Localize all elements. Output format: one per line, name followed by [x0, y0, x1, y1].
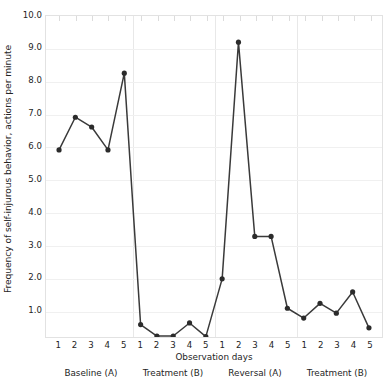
data-point-marker: [366, 325, 371, 330]
data-point-marker: [350, 289, 355, 294]
phase-label: Treatment (B): [143, 368, 203, 378]
phase-label: Reversal (A): [228, 368, 281, 378]
series-polyline: [59, 42, 369, 337]
data-point-marker: [317, 301, 322, 306]
y-tick-label: 10.0: [16, 11, 42, 20]
y-tick-label: 4.0: [16, 208, 42, 217]
data-point-marker: [236, 40, 241, 45]
y-axis-title: Frequency of self-injurous behavior, act…: [0, 0, 14, 338]
y-axis-tick-labels: 10.09.08.07.06.05.04.03.02.01.0: [14, 0, 42, 388]
data-point-marker: [138, 322, 143, 327]
y-tick-label: 6.0: [16, 142, 42, 151]
y-tick-label: 5.0: [16, 175, 42, 184]
data-point-marker: [89, 124, 94, 129]
data-point-marker: [269, 234, 274, 239]
data-point-marker: [73, 115, 78, 120]
data-point-marker: [285, 306, 290, 311]
y-tick-label: 8.0: [16, 76, 42, 85]
chart-container: Frequency of self-injurous behavior, act…: [0, 0, 385, 388]
phase-label: Treatment (B): [307, 368, 367, 378]
y-tick-label: 9.0: [16, 43, 42, 52]
data-point-marker: [252, 234, 257, 239]
data-point-marker: [301, 315, 306, 320]
phase-labels: Baseline (A)Treatment (B)Reversal (A)Tre…: [45, 368, 383, 382]
data-point-marker: [56, 147, 61, 152]
data-point-marker: [220, 276, 225, 281]
plot-area: [45, 15, 383, 338]
data-point-marker: [334, 311, 339, 316]
y-tick-label: 2.0: [16, 273, 42, 282]
x-tick-label: 5: [360, 341, 380, 350]
data-point-marker: [105, 147, 110, 152]
phase-label: Baseline (A): [64, 368, 117, 378]
data-series-line: [46, 16, 382, 337]
data-point-marker: [122, 71, 127, 76]
y-tick-label: 7.0: [16, 109, 42, 118]
y-tick-label: 1.0: [16, 306, 42, 315]
data-point-marker: [187, 320, 192, 325]
y-tick-label: 3.0: [16, 241, 42, 250]
x-axis-title: Observation days: [45, 352, 383, 362]
